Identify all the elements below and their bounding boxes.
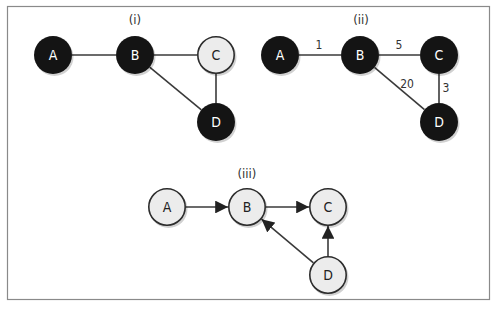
node-label: B	[356, 47, 365, 63]
panel-iii: (iii)ABCD	[149, 166, 349, 296]
node-label: A	[49, 47, 58, 63]
edge-weight-label: 20	[400, 77, 414, 91]
node-c: C	[198, 37, 237, 76]
node-a: A	[34, 36, 74, 76]
edge-D-B	[262, 219, 314, 263]
node-label: D	[434, 114, 444, 130]
edge-B-D	[150, 67, 202, 110]
edge-weight-label: 5	[396, 38, 403, 52]
graph-figure: (i)ABCD(ii)15203ABCD(iii)ABCD	[0, 0, 498, 317]
node-label: D	[211, 114, 221, 130]
panel-i: (i)ABCD	[34, 12, 237, 143]
edge-weight-label: 1	[316, 38, 323, 52]
figure-frame	[8, 7, 490, 300]
node-a: A	[149, 189, 188, 228]
edge-weight-label: 3	[443, 81, 450, 95]
figure-caption-cropped	[8, 311, 478, 317]
panel-title: (iii)	[238, 166, 257, 181]
node-label: C	[324, 199, 333, 215]
node-label: C	[212, 47, 221, 63]
node-a: A	[261, 36, 301, 76]
node-d: D	[420, 103, 460, 143]
node-d: D	[197, 103, 237, 143]
panel-title: (ii)	[353, 12, 369, 27]
node-label: B	[131, 47, 140, 63]
node-c: C	[310, 189, 349, 228]
node-label: C	[435, 47, 444, 63]
node-d: D	[310, 257, 349, 296]
node-c: C	[420, 36, 460, 76]
node-label: D	[323, 267, 333, 283]
node-label: A	[276, 47, 285, 63]
panel-title: (i)	[129, 12, 141, 27]
panel-ii: (ii)15203ABCD	[261, 12, 460, 143]
node-b: B	[229, 189, 268, 228]
panels: (i)ABCD(ii)15203ABCD(iii)ABCD	[34, 12, 460, 296]
node-b: B	[341, 36, 381, 76]
node-label: A	[163, 199, 172, 215]
node-label: B	[243, 199, 252, 215]
node-b: B	[116, 36, 156, 76]
